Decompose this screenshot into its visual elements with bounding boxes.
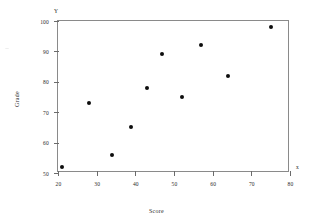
x-tick-label: 70: [249, 181, 255, 187]
x-axis-cap-label: x: [296, 164, 299, 170]
y-tick: 100: [54, 21, 59, 22]
x-tick-label: 30: [94, 181, 100, 187]
x-tick-label: 60: [210, 181, 216, 187]
x-tick: 40: [135, 171, 136, 176]
scatter-plot-figure: Y x Grade Score 5060708090100 2030405060…: [0, 0, 313, 217]
y-axis-title: Grade: [14, 91, 20, 107]
data-point: [226, 74, 230, 78]
y-tick: 60: [54, 143, 59, 144]
y-tick-label: 90: [43, 49, 49, 55]
y-tick: 80: [54, 82, 59, 83]
x-tick: 20: [58, 171, 59, 176]
y-tick-label: 80: [43, 79, 49, 85]
y-tick-label: 70: [43, 110, 49, 116]
data-point: [199, 43, 203, 47]
y-tick: 90: [54, 51, 59, 52]
y-axis-cap-label: Y: [54, 8, 58, 14]
y-tick-label: 60: [43, 140, 49, 146]
data-point: [87, 101, 91, 105]
data-point: [110, 153, 114, 157]
data-point: [180, 95, 184, 99]
data-point: [160, 52, 164, 56]
y-tick-label: 50: [43, 171, 49, 177]
plot-area: 5060708090100 20304050607080: [57, 20, 289, 172]
x-tick-label: 80: [288, 181, 294, 187]
x-tick: 70: [251, 171, 252, 176]
x-axis-title: Score: [0, 208, 313, 214]
x-tick: 60: [213, 171, 214, 176]
x-tick: 80: [290, 171, 291, 176]
data-point: [129, 125, 133, 129]
data-point: [145, 86, 149, 90]
data-point: [60, 165, 64, 169]
y-tick: 70: [54, 112, 59, 113]
x-tick-label: 50: [172, 181, 178, 187]
x-tick-label: 40: [133, 181, 139, 187]
data-point: [269, 25, 273, 29]
page-speckle: [5, 48, 9, 49]
x-tick-label: 20: [56, 181, 62, 187]
y-tick-label: 100: [40, 19, 49, 25]
x-tick: 30: [97, 171, 98, 176]
x-tick: 50: [174, 171, 175, 176]
